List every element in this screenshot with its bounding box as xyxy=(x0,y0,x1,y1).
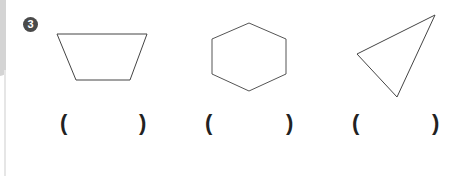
answer-blank-2[interactable] xyxy=(217,110,283,136)
answer-blank-3[interactable] xyxy=(364,110,429,136)
hexagon-shape xyxy=(212,23,286,91)
answer-close-paren-1: ) xyxy=(139,110,146,136)
answer-open-paren-2: ( xyxy=(205,110,212,136)
shapes-canvas xyxy=(0,0,454,176)
answer-close-paren-3: ) xyxy=(432,110,439,136)
triangle-shape xyxy=(357,15,435,97)
trapezoid-shape xyxy=(57,34,147,80)
answer-blank-1[interactable] xyxy=(72,110,136,136)
answer-open-paren-1: ( xyxy=(60,110,67,136)
answer-close-paren-2: ) xyxy=(286,110,293,136)
answer-open-paren-3: ( xyxy=(352,110,359,136)
